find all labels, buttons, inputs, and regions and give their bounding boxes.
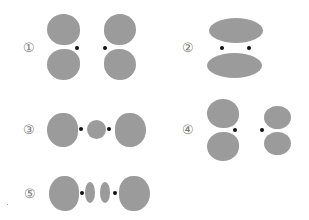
- lobe: [104, 14, 136, 45]
- nucleus-dot: [220, 46, 224, 50]
- lobe: [207, 53, 262, 78]
- lobe: [47, 49, 80, 80]
- figure-5-label: ⑤: [22, 187, 38, 201]
- lobe: [264, 106, 291, 129]
- figure-4-label: ④: [180, 123, 196, 137]
- lobe: [104, 49, 136, 80]
- lobe: [209, 18, 263, 43]
- nucleus-dot: [79, 127, 83, 131]
- nucleus-dot: [247, 46, 251, 50]
- lobe: [49, 176, 79, 211]
- nucleus-dot: [233, 128, 237, 132]
- figure-3-label: ③: [21, 123, 37, 137]
- lobe: [115, 113, 146, 147]
- lobe: [87, 120, 106, 139]
- lobe: [47, 14, 80, 45]
- nucleus-dot: [107, 127, 111, 131]
- nucleus-dot: [260, 128, 264, 132]
- lobe: [264, 132, 291, 155]
- nucleus-dot: [80, 191, 84, 195]
- lobe: [119, 176, 150, 211]
- lobe: [100, 182, 110, 203]
- lobe: [207, 132, 239, 161]
- figure-1-label: ①: [21, 41, 37, 55]
- nucleus-dot: [113, 191, 117, 195]
- lobe: [47, 113, 78, 147]
- figure-2-label: ②: [180, 41, 196, 55]
- lobe: [85, 182, 95, 203]
- nucleus-dot: [103, 46, 107, 50]
- nucleus-dot: [75, 46, 79, 50]
- stray-mark: [7, 204, 8, 205]
- lobe: [207, 99, 239, 128]
